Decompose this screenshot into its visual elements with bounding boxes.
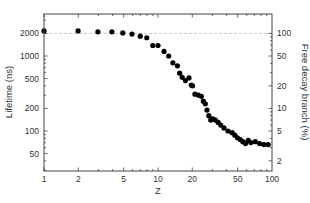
y-right-tick-label: 10 [277,103,287,113]
x-tick-label: 10 [153,174,163,184]
data-point [166,53,171,58]
data-point [144,35,149,40]
data-point [161,49,166,54]
data-point [75,28,80,33]
data-point [204,107,209,112]
data-point [95,29,100,34]
data-point [155,43,160,48]
x-tick-label: 5 [121,174,126,184]
data-point [120,30,125,35]
y-right-tick-label: 50 [277,51,287,61]
data-point [150,43,155,48]
y-right-tick-label: 100 [277,28,291,38]
y-right-tick-label: 5 [277,126,282,136]
y-tick-label: 1000 [20,51,39,61]
data-points [41,28,270,147]
x-axis-title: Z [155,185,161,196]
y-tick-label: 100 [25,126,39,136]
data-point [199,94,204,99]
data-point [203,101,208,106]
data-point [175,63,180,68]
x-tick-label: 1 [42,174,47,184]
y-axis-title-left: Lifetime (ns) [3,66,14,118]
y-axis-title-right: Free decay branch (%) [300,44,310,141]
chart: 125102050100 5010020050010002000 2510205… [0,0,310,203]
x-axis: 125102050100 [42,14,280,184]
data-point [186,75,191,80]
data-point [138,34,143,39]
data-point [170,60,175,65]
x-tick-label: 50 [233,174,243,184]
y-tick-label: 50 [30,149,40,159]
x-tick-label: 2 [76,174,81,184]
y-axis-left: 5010020050010002000 [20,20,47,170]
y-right-tick-label: 2 [277,156,282,166]
y-tick-label: 2000 [20,28,39,38]
data-point [266,142,271,147]
data-point [190,83,195,88]
y-tick-label: 200 [25,103,39,113]
data-point [248,140,253,145]
x-tick-label: 20 [188,174,198,184]
y-right-tick-label: 20 [277,81,287,91]
x-tick-label: 100 [265,174,279,184]
data-point [129,31,134,36]
plot-frame [44,14,272,171]
data-point [109,29,114,34]
y-tick-label: 500 [25,74,39,84]
